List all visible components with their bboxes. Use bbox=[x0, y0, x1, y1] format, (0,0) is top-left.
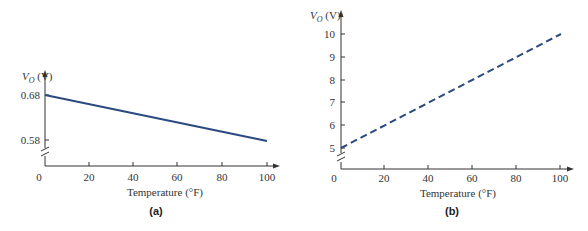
chart-a-x-tick-label: 100 bbox=[259, 171, 276, 183]
chart-b-x-tick-label: 0 bbox=[331, 172, 337, 184]
chart-b-x-tick-label: 20 bbox=[379, 172, 391, 184]
chart-b-y-tick-label: 10 bbox=[324, 28, 336, 40]
chart-b-series-line bbox=[341, 34, 561, 148]
chart-a-x-tick-label: 80 bbox=[217, 171, 229, 183]
chart-a-x-arrow-icon bbox=[273, 164, 280, 169]
chart-b-y-tick-label: 7 bbox=[330, 96, 336, 108]
chart-b-y-tick-label: 8 bbox=[330, 74, 336, 86]
chart-b-y-tick-label: 6 bbox=[330, 119, 336, 131]
chart-a-x-tick-label: 60 bbox=[172, 171, 184, 183]
figure: 0.68 0.58 VO (V) 0 20 40 60 80 100 Tempe… bbox=[0, 0, 588, 231]
chart-a-panel-label: (a) bbox=[149, 205, 163, 217]
chart-a-series-line bbox=[45, 95, 267, 141]
chart-b-x-arrow-icon bbox=[567, 167, 574, 172]
chart-b-y-tick-label: 5 bbox=[330, 142, 336, 154]
chart-a-y-tick-label: 0.58 bbox=[21, 134, 41, 146]
chart-b-x-tick-label: 100 bbox=[552, 172, 569, 184]
chart-a-x-tick-label: 0 bbox=[36, 171, 42, 183]
chart-b-x-tick-label: 40 bbox=[423, 172, 435, 184]
chart-a-axis-break-icon bbox=[41, 147, 49, 156]
chart-a: 0.68 0.58 VO (V) 0 20 40 60 80 100 Tempe… bbox=[21, 70, 280, 217]
chart-b: 10 9 8 7 6 5 VO (V) 0 20 40 60 80 100 Te… bbox=[310, 9, 574, 217]
chart-b-x-tick-label: 60 bbox=[467, 172, 479, 184]
chart-a-x-label: Temperature (°F) bbox=[127, 186, 203, 199]
chart-b-y-label: VO (V) bbox=[310, 9, 341, 24]
chart-b-panel-label: (b) bbox=[445, 205, 459, 217]
chart-a-x-tick-label: 40 bbox=[128, 171, 140, 183]
chart-b-y-tick-label: 9 bbox=[330, 51, 336, 63]
chart-b-axis-break-icon bbox=[337, 152, 345, 162]
chart-a-y-label: VO (V) bbox=[22, 70, 53, 85]
chart-a-x-tick-label: 20 bbox=[84, 171, 96, 183]
chart-b-x-tick-label: 80 bbox=[511, 172, 523, 184]
chart-a-y-tick-label: 0.68 bbox=[21, 89, 41, 101]
chart-b-x-label: Temperature (°F) bbox=[420, 187, 496, 200]
